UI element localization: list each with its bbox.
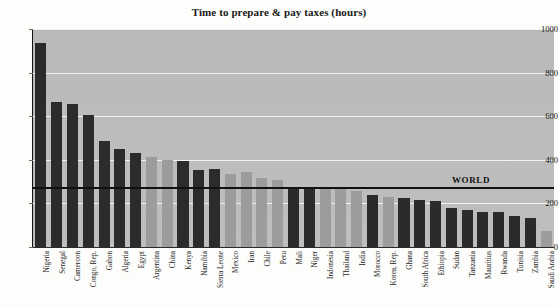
bar xyxy=(99,141,110,247)
bar xyxy=(462,210,473,247)
y-tick-label-800: 800 xyxy=(530,68,558,78)
bar xyxy=(209,169,220,247)
bar xyxy=(383,197,394,247)
world-reference-label: WORLD xyxy=(452,175,490,185)
x-axis-label: Kenya xyxy=(186,251,193,270)
x-axis-label: Tunisia xyxy=(518,251,525,272)
bar xyxy=(35,43,46,247)
x-axis-label: Mexico xyxy=(233,251,240,273)
x-axis-label: Saudi Arabia xyxy=(549,251,556,288)
y-tick-label-400: 400 xyxy=(530,155,558,165)
x-axis-label: Nigeria xyxy=(44,251,51,273)
bar xyxy=(83,115,94,247)
x-axis-label: Sudan xyxy=(454,251,461,269)
x-axis-label: Chile xyxy=(265,251,272,267)
x-axis-label: Iran xyxy=(249,251,256,263)
x-axis-label: Ethiopia xyxy=(439,251,446,275)
x-axis-label: Ghana xyxy=(407,251,414,270)
x-axis-label: Namibia xyxy=(202,251,209,276)
x-axis-label: Sierra Leone xyxy=(218,251,225,288)
x-axis-label: Thailand xyxy=(344,251,351,277)
bar xyxy=(130,153,141,247)
world-reference-line xyxy=(32,187,554,190)
x-axis-label: Cameroon xyxy=(75,251,82,281)
x-axis xyxy=(32,247,554,248)
x-axis-label: Mali xyxy=(297,251,304,265)
y-tick-label-600: 600 xyxy=(530,111,558,121)
x-axis-label: Tanzania xyxy=(470,251,477,277)
x-axis-label: Morocco xyxy=(375,251,382,277)
y-axis xyxy=(32,29,33,248)
x-axis-label: Rwanda xyxy=(502,251,509,275)
bar xyxy=(304,189,315,247)
y-tick-mark-400 xyxy=(29,160,33,161)
bar xyxy=(477,212,488,247)
x-axis-category-labels: NigeriaSenegalCameroonCongo, Rep.GabonAl… xyxy=(0,249,558,307)
bar xyxy=(335,189,346,247)
x-axis-label: Egypt xyxy=(139,251,146,268)
bar xyxy=(493,212,504,247)
x-axis-label: China xyxy=(170,251,177,268)
y-tick-label-200: 200 xyxy=(530,198,558,208)
bar xyxy=(114,149,125,247)
bar xyxy=(367,195,378,247)
bar xyxy=(430,201,441,247)
x-axis-label: Senegal xyxy=(60,251,67,274)
bar xyxy=(414,200,425,247)
bar xyxy=(272,180,283,247)
x-axis-label: India xyxy=(360,251,367,266)
y-tick-label-1000: 1000 xyxy=(530,24,558,34)
x-axis-label: Congo, Rep. xyxy=(91,251,98,287)
bar xyxy=(162,160,173,247)
bar-series xyxy=(33,29,554,247)
x-axis-label: Argentina xyxy=(154,251,161,280)
y-tick-mark-200 xyxy=(29,203,33,204)
x-axis-label: Gabon xyxy=(107,251,114,270)
page-title: Time to prepare & pay taxes (hours) xyxy=(0,6,558,18)
bar xyxy=(225,174,236,247)
bar xyxy=(351,191,362,247)
x-axis-label: Indonesia xyxy=(328,251,335,279)
y-tick-mark-800 xyxy=(29,73,33,74)
x-axis-label: Mauritius xyxy=(486,251,493,279)
x-axis-label: Zambia xyxy=(533,251,540,273)
y-tick-mark-1000 xyxy=(29,29,33,30)
x-axis-label: South Africa xyxy=(423,251,430,288)
bar xyxy=(146,157,157,247)
bar xyxy=(193,170,204,247)
bar xyxy=(177,161,188,247)
x-axis-label: Niger xyxy=(312,251,319,267)
x-axis-label: Korea, Rep. xyxy=(391,251,398,286)
bar xyxy=(67,104,78,247)
bar xyxy=(398,198,409,247)
chart-page: Time to prepare & pay taxes (hours) 0200… xyxy=(0,0,558,307)
x-axis-label: Algeria xyxy=(123,251,130,273)
bar xyxy=(446,208,457,247)
bar xyxy=(51,102,62,247)
x-axis-label: Peru xyxy=(281,251,288,264)
y-tick-mark-600 xyxy=(29,116,33,117)
y-tick-mark-0 xyxy=(29,247,33,248)
bar xyxy=(320,189,331,247)
bar xyxy=(241,172,252,247)
plot-area xyxy=(33,29,554,247)
bar xyxy=(288,188,299,247)
bar xyxy=(509,216,520,247)
